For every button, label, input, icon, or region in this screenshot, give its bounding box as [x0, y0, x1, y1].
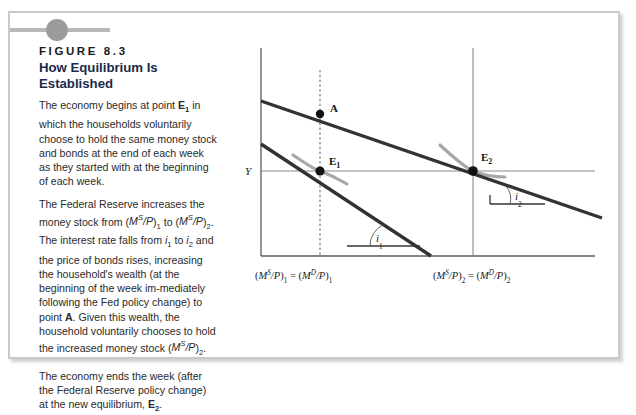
point-A-dot	[316, 110, 324, 118]
angle-label-i2: i2	[515, 190, 522, 209]
decorative-dot	[46, 19, 68, 41]
point-E1-label: E1	[329, 155, 340, 170]
figure-panel: FIGURE 8.3 How Equilibrium Is Establishe…	[8, 11, 620, 359]
y-axis-label: Y	[245, 165, 253, 177]
equilibrium-chart: i1 i2 A E1 E2 Y (MS/P)1 = (MD/P)1 (MS/P)…	[215, 27, 615, 292]
angle-arc-i2	[506, 186, 511, 204]
budget-line-new	[261, 101, 602, 218]
figure-title-line1: How Equilibrium Is	[39, 60, 158, 75]
budget-line-initial	[261, 144, 431, 256]
caption-paragraph-2: The Federal Reserve increases the money …	[39, 197, 217, 359]
x-tick-label-2: (MS/P)2 = (MD/P)2	[433, 269, 511, 285]
x-tick-label-1: (MS/P)1 = (MD/P)1	[255, 269, 333, 285]
caption-paragraph-1: The economy begins at point E1 in which …	[39, 98, 217, 188]
caption-column: FIGURE 8.3 How Equilibrium Is Establishe…	[39, 44, 217, 415]
figure-title: How Equilibrium Is Established	[39, 60, 217, 91]
angle-label-i1: i1	[376, 232, 383, 251]
point-E2-label: E2	[481, 151, 492, 166]
point-A-label: A	[330, 102, 338, 114]
point-E2-dot	[468, 166, 478, 176]
point-E1-dot	[315, 166, 324, 175]
figure-title-line2: Established	[39, 76, 113, 91]
figure-number: FIGURE 8.3	[39, 44, 217, 58]
caption-paragraph-3: The economy ends the week (after the Fed…	[39, 369, 217, 415]
